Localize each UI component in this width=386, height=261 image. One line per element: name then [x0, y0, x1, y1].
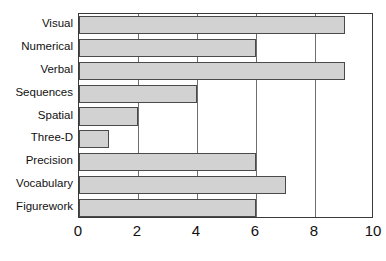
- x-tick-label: 10: [353, 223, 386, 238]
- plot-area: [78, 13, 373, 218]
- x-tick-label: 6: [235, 223, 275, 238]
- category-label: Vocabulary: [0, 178, 76, 190]
- category-label: Verbal: [0, 64, 76, 76]
- x-tick-label: 0: [58, 223, 98, 238]
- bar: [79, 107, 138, 125]
- category-label: Figurework: [0, 201, 76, 213]
- category-label: Visual: [0, 18, 76, 30]
- x-tick-label: 4: [176, 223, 216, 238]
- x-tick-label: 8: [294, 223, 334, 238]
- category-label: Precision: [0, 155, 76, 167]
- bar: [79, 199, 256, 217]
- bar: [79, 176, 286, 194]
- category-label: Three-D: [0, 132, 76, 144]
- bar: [79, 39, 256, 57]
- category-axis-labels: VisualNumericalVerbalSequencesSpatialThr…: [0, 13, 76, 218]
- bar: [79, 153, 256, 171]
- bar: [79, 62, 345, 80]
- category-label: Sequences: [0, 87, 76, 99]
- bar: [79, 16, 345, 34]
- bar-series: [79, 14, 372, 217]
- bar: [79, 85, 197, 103]
- value-axis-labels: 0246810: [0, 219, 375, 247]
- category-label: Spatial: [0, 110, 76, 122]
- bar: [79, 130, 109, 148]
- x-tick-label: 2: [117, 223, 157, 238]
- category-label: Numerical: [0, 41, 76, 53]
